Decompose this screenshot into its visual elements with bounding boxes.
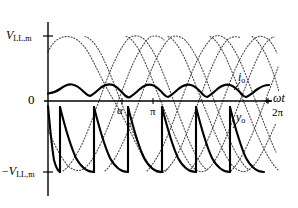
waveform-figure: VLL,m −VLL,m 0 ωt 2π α π io vo (0, 0, 298, 208)
vo-curve (48, 106, 264, 172)
y-axis-max-label: VLL,m (6, 29, 32, 43)
vo-segment-0 (48, 106, 60, 172)
x-axis-arrow (266, 99, 272, 103)
sinusoid-5 (105, 36, 249, 171)
vo-segment-3 (128, 107, 162, 172)
plot-canvas (0, 0, 298, 208)
sinusoid-6 (126, 37, 274, 172)
vo-curve-label: vo (236, 111, 245, 125)
sinusoid-12 (252, 37, 279, 93)
y-axis-min-label: −VLL,m (2, 165, 34, 179)
x-axis-end-tick-label: 2π (272, 107, 283, 118)
origin-label: 0 (28, 93, 35, 106)
io-curve-label: io (238, 71, 245, 85)
sinusoid-3 (63, 36, 207, 171)
firing-angle-label: α (117, 105, 123, 116)
sinusoid-7 (147, 36, 276, 171)
vo-segment-5 (196, 107, 230, 172)
pi-tick-label: π (150, 106, 156, 117)
x-axis-label: ωt (273, 92, 285, 104)
